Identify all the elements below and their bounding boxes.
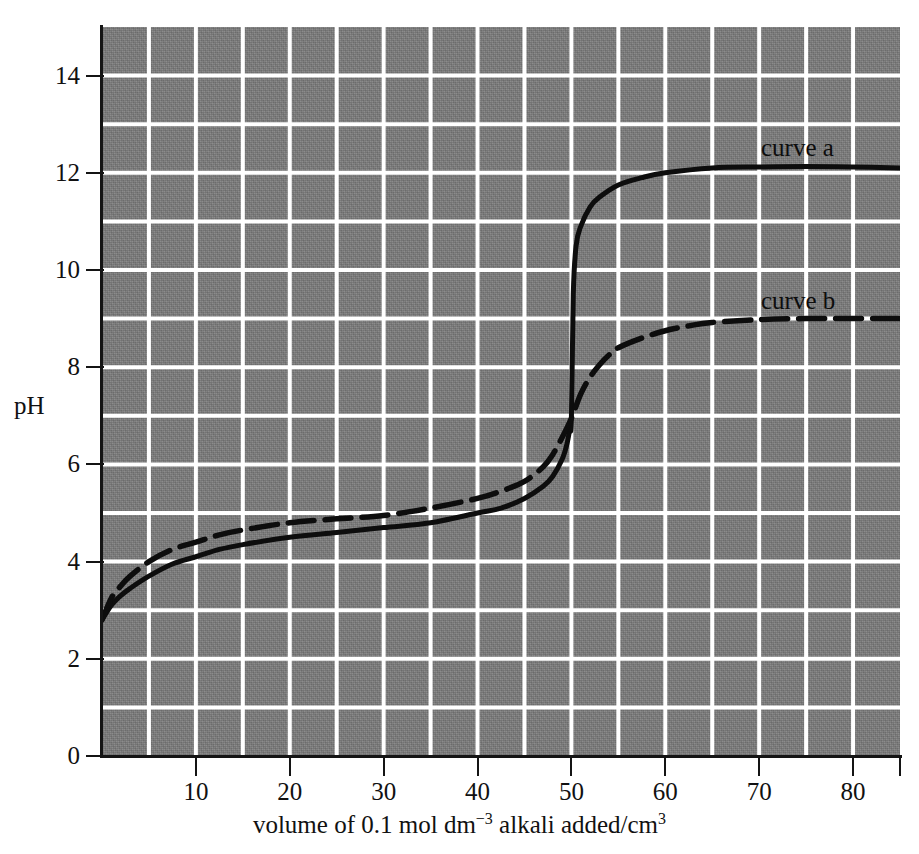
x-axis-tick (664, 757, 666, 776)
x-axis-title-pre: volume of 0.1 mol dm (253, 811, 476, 838)
x-axis-tick (289, 757, 291, 776)
x-axis-tick (383, 757, 385, 776)
y-axis-tick (86, 463, 104, 465)
x-axis-title: volume of 0.1 mol dm−3 alkali added/cm3 (0, 812, 919, 837)
y-axis-tick-label: 4 (36, 549, 80, 574)
x-axis-title-sup-cm: 3 (658, 810, 666, 827)
y-axis-tick (86, 75, 104, 77)
x-axis-tick (195, 757, 197, 776)
curve-a-label: curve a (761, 135, 834, 160)
x-axis-tick-label: 50 (541, 779, 601, 804)
y-axis-tick-label: 10 (36, 257, 80, 282)
x-axis-tick-label: 40 (448, 779, 508, 804)
x-axis-tick-label: 10 (166, 779, 226, 804)
x-axis-title-sup-dm: −3 (476, 810, 493, 827)
y-axis-title: pH (14, 393, 45, 418)
curve-b-label: curve b (761, 288, 835, 313)
x-axis-tick-label: 30 (354, 779, 414, 804)
x-axis-tick-label: 70 (729, 779, 789, 804)
y-axis-tick (86, 755, 104, 757)
y-axis-tick-label: 14 (36, 63, 80, 88)
x-axis-tick-end (899, 757, 901, 776)
y-axis-tick (86, 366, 104, 368)
y-axis-tick-label: 12 (36, 160, 80, 185)
x-axis-title-mid: alkali added/cm (493, 811, 658, 838)
y-axis-tick (86, 561, 104, 563)
x-axis-spine (100, 755, 902, 758)
x-axis-tick (758, 757, 760, 776)
titration-curve-figure: 02468101214 1020304050607080 pH volume o… (0, 0, 919, 854)
x-axis-tick-label: 20 (260, 779, 320, 804)
x-axis-tick-label: 60 (635, 779, 695, 804)
y-axis-tick-label: 0 (36, 743, 80, 768)
y-axis-tick-label: 6 (36, 451, 80, 476)
x-axis-tick (570, 757, 572, 776)
y-axis-spine (100, 25, 103, 758)
y-axis-tick (86, 269, 104, 271)
y-axis-tick-label: 2 (36, 646, 80, 671)
curve-a-path (102, 166, 900, 619)
y-axis-tick (86, 172, 104, 174)
x-axis-tick (477, 757, 479, 776)
y-axis-tick (86, 658, 104, 660)
y-axis-tick-label: 8 (36, 354, 80, 379)
x-axis-tick (852, 757, 854, 776)
curve-b-path (102, 319, 900, 620)
x-axis-tick-label: 80 (823, 779, 883, 804)
